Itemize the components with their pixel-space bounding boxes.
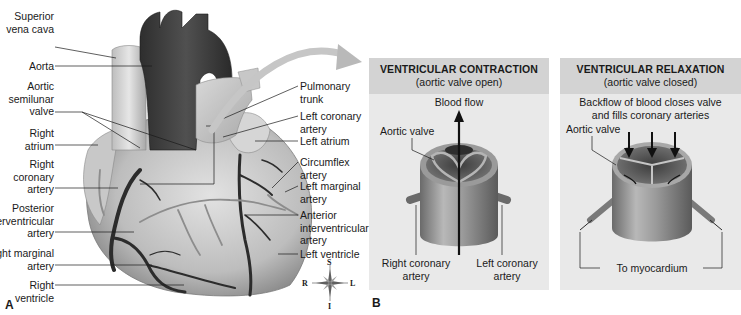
- myocardium-label: To myocardium: [602, 262, 702, 275]
- contraction-title: VENTRICULAR CONTRACTION: [369, 58, 549, 76]
- label-aortic-semilunar-valve: Aortic semilunar valve: [8, 80, 54, 118]
- label-left-marginal-artery: Left marginal artery: [300, 180, 361, 205]
- contraction-subtitle: (aortic valve open): [369, 76, 549, 89]
- relaxation-aortic-valve-label: Aortic valve: [566, 123, 636, 136]
- panel-letter-b: B: [372, 296, 381, 310]
- contraction-header: VENTRICULAR CONTRACTION (aortic valve op…: [369, 58, 549, 94]
- label-right-coronary-artery: Right coronary artery: [13, 158, 54, 196]
- label-superior-vena-cava: Superior vena cava: [6, 10, 54, 35]
- relaxation-title: VENTRICULAR RELAXATION: [560, 58, 741, 76]
- compass-icon: [312, 265, 348, 301]
- right-coronary-label: Right coronary artery: [372, 257, 460, 282]
- relaxation-subtitle: (aortic valve closed): [560, 76, 741, 89]
- backflow-description: Backflow of blood closes valve and fills…: [562, 96, 739, 121]
- contraction-aortic-valve-label: Aortic valve: [380, 125, 450, 138]
- panel-letter-a: A: [5, 298, 14, 312]
- left-coronary-label: Left coronary artery: [466, 257, 548, 282]
- compass-left: L: [350, 279, 355, 288]
- relaxation-header: VENTRICULAR RELAXATION (aortic valve clo…: [560, 58, 741, 94]
- compass-inferior: I: [328, 302, 331, 311]
- label-pulmonary-trunk: Pulmonary trunk: [300, 80, 350, 105]
- blood-flow-label: Blood flow: [419, 96, 499, 109]
- label-right-atrium: Right atrium: [25, 127, 54, 152]
- compass-right: R: [302, 279, 308, 288]
- label-left-coronary-artery: Left coronary artery: [300, 110, 361, 135]
- label-left-atrium: Left atrium: [300, 135, 350, 148]
- label-right-marginal-artery: Right marginal artery: [0, 247, 54, 272]
- label-anterior-interventricular-artery: Anterior interventricular artery: [300, 209, 369, 247]
- label-posterior-interventricular-artery: Posterior interventricular artery: [0, 202, 54, 240]
- label-aorta: Aorta: [29, 60, 54, 73]
- compass-superior: S: [327, 258, 331, 267]
- label-circumflex-artery: Circumflex artery: [300, 156, 350, 181]
